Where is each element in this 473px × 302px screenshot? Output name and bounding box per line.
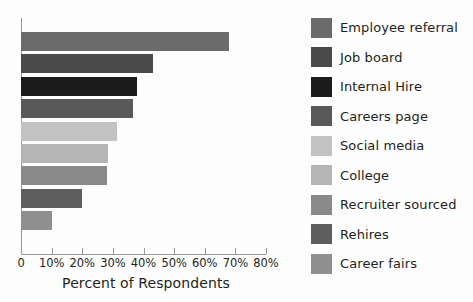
x-tick-label: 60% <box>192 256 217 270</box>
bar <box>21 144 108 163</box>
legend-item[interactable]: Job board <box>311 43 473 73</box>
bar-row <box>21 76 271 98</box>
bar-row <box>21 188 271 210</box>
x-tick-mark <box>205 248 206 254</box>
bar-chart-figure: 010%20%30%40%50%60%70%80% Percent of Res… <box>0 0 473 302</box>
legend-item[interactable]: Rehires <box>311 220 473 250</box>
x-tick-label: 40% <box>131 256 156 270</box>
legend-item[interactable]: Social media <box>311 131 473 161</box>
x-axis-title: Percent of Respondents <box>0 275 292 291</box>
bar <box>21 77 137 96</box>
legend-label: Employee referral <box>340 20 458 35</box>
x-axis-tick-marks <box>0 248 292 256</box>
legend-swatch-icon <box>311 106 332 126</box>
x-tick-mark <box>174 248 175 254</box>
bar <box>21 54 153 73</box>
legend-item[interactable]: Career fairs <box>311 249 473 279</box>
legend-item[interactable]: College <box>311 161 473 191</box>
x-tick-mark <box>266 248 267 254</box>
x-tick-mark <box>144 248 145 254</box>
bar-row <box>21 165 271 187</box>
x-tick-mark <box>82 248 83 254</box>
legend-swatch-icon <box>311 195 332 215</box>
legend-label: College <box>340 168 389 183</box>
legend-item[interactable]: Careers page <box>311 102 473 132</box>
bar-row <box>21 98 271 120</box>
x-tick-label: 50% <box>161 256 186 270</box>
bar <box>21 189 82 208</box>
bar <box>21 99 133 118</box>
plot-area: 010%20%30%40%50%60%70%80% Percent of Res… <box>0 0 292 302</box>
legend-item[interactable]: Recruiter sourced <box>311 190 473 220</box>
bar-row <box>21 121 271 143</box>
legend-swatch-icon <box>311 18 332 38</box>
legend-label: Career fairs <box>340 256 417 271</box>
x-tick-mark <box>113 248 114 254</box>
bar-series <box>21 31 271 235</box>
bar <box>21 211 52 230</box>
bar <box>21 166 107 185</box>
x-tick-label: 80% <box>253 256 278 270</box>
x-tick-label: 20% <box>70 256 95 270</box>
legend-swatch-icon <box>311 47 332 67</box>
legend-swatch-icon <box>311 224 332 244</box>
bar <box>21 32 229 51</box>
x-tick-label: 10% <box>39 256 64 270</box>
bar <box>21 122 117 141</box>
legend-label: Recruiter sourced <box>340 197 457 212</box>
x-tick-label: 70% <box>223 256 248 270</box>
x-tick-label: 30% <box>100 256 125 270</box>
legend-label: Rehires <box>340 227 389 242</box>
legend-label: Internal Hire <box>340 79 422 94</box>
bar-row <box>21 143 271 165</box>
legend-label: Careers page <box>340 109 428 124</box>
legend-item[interactable]: Internal Hire <box>311 72 473 102</box>
x-tick-label: 0 <box>17 256 24 270</box>
legend-swatch-icon <box>311 254 332 274</box>
x-tick-mark <box>235 248 236 254</box>
legend-item[interactable]: Employee referral <box>311 13 473 43</box>
x-axis-tick-labels: 010%20%30%40%50%60%70%80% <box>0 256 292 272</box>
legend-label: Social media <box>340 138 424 153</box>
chart-legend: Employee referralJob boardInternal HireC… <box>311 13 473 279</box>
bar-row <box>21 31 271 53</box>
legend-label: Job board <box>340 50 403 65</box>
legend-swatch-icon <box>311 77 332 97</box>
x-tick-mark <box>21 248 22 254</box>
legend-swatch-icon <box>311 136 332 156</box>
legend-swatch-icon <box>311 165 332 185</box>
bar-row <box>21 53 271 75</box>
bar-row <box>21 210 271 232</box>
x-tick-mark <box>52 248 53 254</box>
